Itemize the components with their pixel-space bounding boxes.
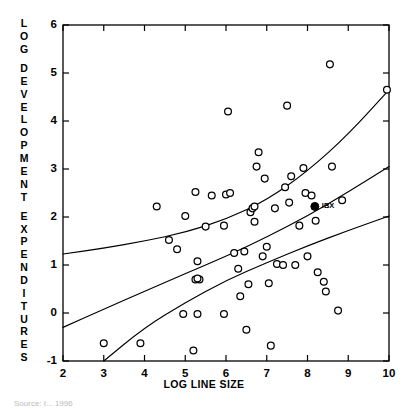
x-tick-label: 6 bbox=[215, 367, 237, 379]
x-tick-label: 3 bbox=[93, 367, 115, 379]
y-tick-label: 1 bbox=[35, 258, 57, 270]
data-point[interactable] bbox=[221, 311, 228, 318]
data-point[interactable] bbox=[243, 326, 250, 333]
data-point[interactable] bbox=[329, 163, 336, 170]
y-tick-label: -1 bbox=[35, 354, 57, 366]
data-point[interactable] bbox=[314, 269, 321, 276]
data-point-label: IBX bbox=[322, 201, 335, 210]
data-point[interactable] bbox=[194, 258, 201, 265]
data-point[interactable] bbox=[292, 262, 299, 269]
data-point[interactable] bbox=[194, 275, 201, 282]
data-point[interactable] bbox=[327, 61, 334, 68]
data-point[interactable] bbox=[194, 311, 201, 318]
data-point[interactable] bbox=[384, 86, 391, 93]
data-point[interactable] bbox=[286, 199, 293, 206]
data-point[interactable] bbox=[261, 175, 268, 182]
chart-svg bbox=[0, 0, 408, 409]
data-point[interactable] bbox=[320, 278, 327, 285]
x-tick-label: 5 bbox=[174, 367, 196, 379]
source-note: Source: I... 1996 bbox=[14, 399, 73, 408]
data-point[interactable] bbox=[322, 288, 329, 295]
data-point[interactable] bbox=[100, 340, 107, 347]
x-tick-label: 7 bbox=[256, 367, 278, 379]
data-point[interactable] bbox=[308, 192, 315, 199]
data-point[interactable] bbox=[241, 248, 248, 255]
x-tick-label: 9 bbox=[337, 367, 359, 379]
x-tick-label: 8 bbox=[297, 367, 319, 379]
data-point[interactable] bbox=[296, 222, 303, 229]
data-point[interactable] bbox=[221, 222, 228, 229]
data-point[interactable] bbox=[255, 149, 262, 156]
y-tick-label: 4 bbox=[35, 114, 57, 126]
data-point[interactable] bbox=[245, 281, 252, 288]
data-point[interactable] bbox=[202, 223, 209, 230]
x-tick-label: 4 bbox=[134, 367, 156, 379]
plot-area bbox=[0, 0, 408, 409]
y-tick-label: 3 bbox=[35, 162, 57, 174]
data-point[interactable] bbox=[153, 203, 160, 210]
data-point[interactable] bbox=[282, 184, 289, 191]
data-point[interactable] bbox=[227, 190, 234, 197]
x-tick-label: 10 bbox=[378, 367, 400, 379]
data-point[interactable] bbox=[312, 217, 319, 224]
data-point[interactable] bbox=[259, 253, 266, 260]
figure: LOGDEVELOPMENTEXPENDITURES LOG LINE SIZE… bbox=[0, 0, 408, 409]
data-point[interactable] bbox=[263, 243, 270, 250]
data-point[interactable] bbox=[304, 253, 311, 260]
data-point[interactable] bbox=[267, 342, 274, 349]
lower-confidence-band bbox=[104, 216, 389, 361]
data-point[interactable] bbox=[166, 237, 173, 244]
x-axis-title: LOG LINE SIZE bbox=[0, 378, 408, 390]
data-point[interactable] bbox=[335, 307, 342, 314]
data-point[interactable] bbox=[174, 246, 181, 253]
y-tick-label: 6 bbox=[35, 18, 57, 30]
data-point[interactable] bbox=[235, 265, 242, 272]
data-point[interactable] bbox=[339, 197, 346, 204]
y-tick-label: 5 bbox=[35, 66, 57, 78]
data-point[interactable] bbox=[272, 205, 279, 212]
data-point[interactable] bbox=[300, 165, 307, 172]
data-point[interactable] bbox=[265, 280, 272, 287]
data-point[interactable] bbox=[192, 189, 199, 196]
data-point[interactable] bbox=[251, 218, 258, 225]
y-tick-label: 0 bbox=[35, 306, 57, 318]
data-point[interactable] bbox=[231, 250, 238, 257]
x-tick-label: 2 bbox=[52, 367, 74, 379]
data-point-highlight[interactable] bbox=[311, 202, 319, 210]
data-point[interactable] bbox=[237, 293, 244, 300]
data-point[interactable] bbox=[280, 262, 287, 269]
y-tick-label: 2 bbox=[35, 210, 57, 222]
data-point[interactable] bbox=[288, 173, 295, 180]
data-point[interactable] bbox=[190, 347, 197, 354]
data-point[interactable] bbox=[180, 311, 187, 318]
data-point[interactable] bbox=[251, 203, 258, 210]
data-point[interactable] bbox=[225, 108, 232, 115]
data-point[interactable] bbox=[284, 102, 291, 109]
data-point[interactable] bbox=[137, 340, 144, 347]
data-point[interactable] bbox=[253, 163, 260, 170]
data-point[interactable] bbox=[208, 192, 215, 199]
data-point[interactable] bbox=[182, 213, 189, 220]
